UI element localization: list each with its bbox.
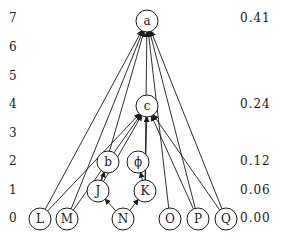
node-label: P bbox=[194, 212, 202, 226]
edges-layer bbox=[45, 31, 222, 211]
node-a: a bbox=[136, 10, 158, 32]
level-label: 1 bbox=[9, 183, 17, 197]
value-label: 0.24 bbox=[240, 97, 271, 111]
edge-N-K bbox=[130, 200, 138, 211]
node-K: K bbox=[134, 180, 156, 202]
node-label: O bbox=[165, 212, 175, 226]
value-label: 0.12 bbox=[240, 154, 271, 168]
level-label: 6 bbox=[9, 40, 17, 54]
level-label: 3 bbox=[9, 126, 17, 140]
nodes-layer: acbϕJKNLMOPQ bbox=[29, 10, 237, 230]
node-phi: ϕ bbox=[127, 151, 149, 173]
node-L: L bbox=[29, 208, 51, 230]
level-label: 7 bbox=[9, 11, 17, 25]
edge-N-J bbox=[105, 199, 115, 211]
node-label: K bbox=[141, 184, 151, 198]
edge-Q-a bbox=[151, 31, 222, 209]
level-label: 2 bbox=[9, 154, 17, 168]
node-Q: Q bbox=[215, 208, 237, 230]
node-label: M bbox=[61, 212, 73, 226]
level-label: 4 bbox=[9, 97, 17, 111]
node-P: P bbox=[187, 208, 209, 230]
node-label: ϕ bbox=[134, 155, 142, 169]
node-label: b bbox=[104, 155, 112, 169]
node-label: N bbox=[118, 212, 129, 226]
node-label: c bbox=[144, 99, 151, 113]
node-M: M bbox=[56, 208, 78, 230]
node-label: Q bbox=[221, 212, 231, 226]
level-label: 5 bbox=[9, 69, 17, 83]
node-label: a bbox=[143, 14, 150, 28]
hierarchy-diagram: acbϕJKNLMOPQ bbox=[0, 0, 283, 240]
node-O: O bbox=[159, 208, 181, 230]
value-label: 0.41 bbox=[240, 11, 271, 25]
edge-M-a bbox=[71, 31, 143, 209]
value-label: 0.06 bbox=[240, 183, 271, 197]
node-N: N bbox=[112, 208, 134, 230]
value-label: 0.00 bbox=[240, 211, 271, 225]
node-label: L bbox=[36, 212, 44, 226]
node-c: c bbox=[136, 95, 158, 117]
level-label: 0 bbox=[9, 211, 17, 225]
edge-K-phi bbox=[141, 173, 143, 181]
node-J: J bbox=[87, 180, 109, 202]
edge-P-c bbox=[152, 116, 194, 209]
node-label: J bbox=[94, 184, 101, 198]
node-b: b bbox=[97, 151, 119, 173]
